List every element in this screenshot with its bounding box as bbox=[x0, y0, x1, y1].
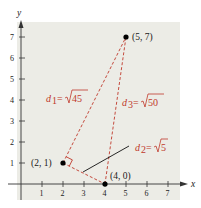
y-axis-label: y bbox=[16, 8, 22, 18]
point-label-2-1: (2, 1) bbox=[31, 158, 52, 169]
x-tick-6: 6 bbox=[145, 189, 149, 198]
point-2-1 bbox=[60, 160, 65, 165]
y-tick-7: 7 bbox=[10, 33, 14, 42]
x-axis-label: x bbox=[190, 179, 196, 189]
plot-background bbox=[17, 22, 180, 200]
svg-text:5: 5 bbox=[161, 142, 166, 153]
point-label-5-7: (5, 7) bbox=[132, 32, 153, 43]
svg-text:50: 50 bbox=[148, 97, 158, 108]
y-tick-6: 6 bbox=[10, 54, 14, 63]
y-tick-1: 1 bbox=[10, 159, 14, 168]
x-tick-5: 5 bbox=[124, 189, 128, 198]
point-5-7 bbox=[123, 34, 128, 39]
y-tick-3: 3 bbox=[10, 117, 14, 126]
x-axis-arrow-icon bbox=[180, 182, 188, 187]
x-tick-4: 4 bbox=[103, 189, 107, 198]
x-tick-3: 3 bbox=[82, 189, 86, 198]
x-tick-7: 7 bbox=[166, 189, 170, 198]
x-tick-1: 1 bbox=[40, 189, 44, 198]
y-tick-4: 4 bbox=[10, 96, 14, 105]
svg-text:=: = bbox=[146, 142, 152, 153]
svg-text:45: 45 bbox=[72, 93, 82, 104]
d2-label: d 2 = 5 bbox=[135, 139, 168, 155]
svg-text:=: = bbox=[57, 93, 63, 104]
point-label-4-0: (4, 0) bbox=[110, 171, 131, 182]
distance-diagram: y 1 2 3 4 5 6 7 x 1 2 3 4 5 6 7 bbox=[0, 0, 201, 208]
y-tick-5: 5 bbox=[10, 75, 14, 84]
x-tick-2: 2 bbox=[61, 189, 65, 198]
y-tick-2: 2 bbox=[10, 138, 14, 147]
point-4-0 bbox=[102, 181, 107, 186]
svg-text:=: = bbox=[133, 97, 139, 108]
